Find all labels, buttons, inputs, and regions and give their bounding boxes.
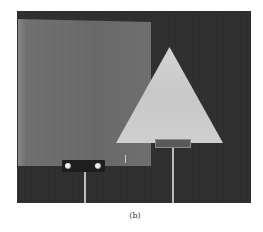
photograph bbox=[17, 11, 251, 203]
figure: (b) bbox=[0, 0, 263, 232]
square-plate bbox=[18, 19, 151, 166]
screw-icon bbox=[65, 163, 71, 169]
triangular-plate-connector bbox=[155, 139, 191, 148]
screw-icon bbox=[95, 163, 101, 169]
square-plate-connector bbox=[62, 160, 105, 172]
square-plate-mark bbox=[125, 155, 126, 163]
triangle-support-pole bbox=[172, 148, 174, 203]
square-support-pole bbox=[84, 172, 86, 203]
figure-caption: (b) bbox=[0, 211, 263, 220]
